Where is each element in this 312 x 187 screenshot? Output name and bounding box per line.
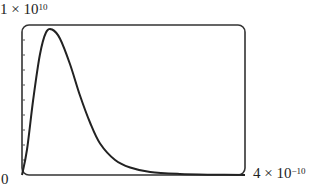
plot-frame: [22, 25, 245, 175]
data-curve: [22, 29, 245, 175]
plot-area: [0, 0, 312, 187]
